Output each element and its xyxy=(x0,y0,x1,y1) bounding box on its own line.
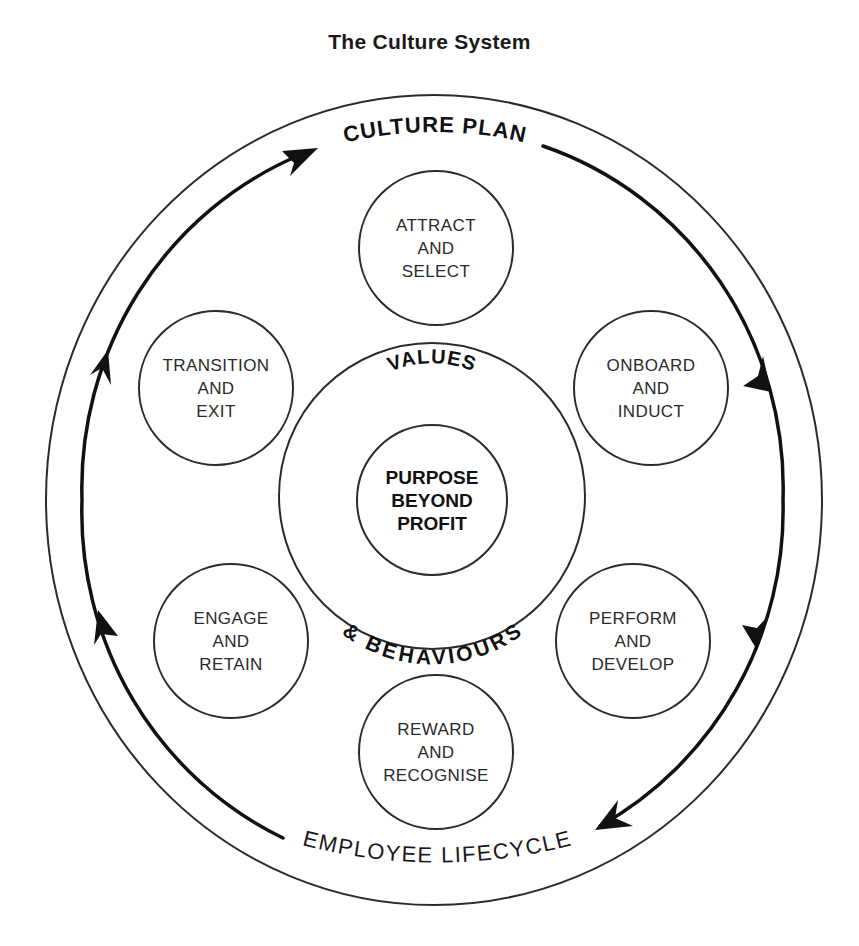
stage-label-line: ONBOARD xyxy=(576,354,726,377)
arrow-head-icon xyxy=(595,800,633,830)
stage-label-line: REWARD xyxy=(361,718,511,741)
stage-label-line: RECOGNISE xyxy=(361,764,511,787)
stage-label-line: ENGAGE xyxy=(156,607,306,630)
stage-reward-and-recognise: REWARD AND RECOGNISE xyxy=(361,718,511,787)
stage-label-line: AND xyxy=(141,377,291,400)
employee-lifecycle-label: EMPLOYEE LIFECYCLE xyxy=(301,825,575,867)
stage-attract-and-select: ATTRACT AND SELECT xyxy=(361,214,511,283)
stage-label-line: AND xyxy=(558,630,708,653)
arrow-head-icon xyxy=(742,616,768,650)
stage-onboard-and-induct: ONBOARD AND INDUCT xyxy=(576,354,726,423)
stage-label-line: INDUCT xyxy=(576,400,726,423)
stage-label-line: RETAIN xyxy=(156,653,306,676)
culture-plan-label: CULTURE PLAN xyxy=(341,112,530,147)
stage-label-line: TRANSITION xyxy=(141,354,291,377)
values-label: VALUES xyxy=(384,345,479,375)
stage-label-line: PERFORM xyxy=(558,607,708,630)
purpose-label: PURPOSE BEYOND PROFIT xyxy=(357,466,507,535)
stage-label-line: AND xyxy=(576,377,726,400)
stage-label-line: AND xyxy=(361,237,511,260)
behaviours-label: & BEHAVIOURS xyxy=(339,618,526,669)
arrow-head-icon xyxy=(90,350,111,385)
purpose-line-1: PURPOSE xyxy=(357,466,507,489)
stage-label-line: AND xyxy=(156,630,306,653)
stage-engage-and-retain: ENGAGE AND RETAIN xyxy=(156,607,306,676)
arrow-head-icon xyxy=(743,356,771,392)
stage-label-line: AND xyxy=(361,741,511,764)
stage-label-line: DEVELOP xyxy=(558,653,708,676)
stage-transition-and-exit: TRANSITION AND EXIT xyxy=(141,354,291,423)
stage-label-line: EXIT xyxy=(141,400,291,423)
purpose-line-2: BEYOND xyxy=(357,489,507,512)
stage-label-line: SELECT xyxy=(361,260,511,283)
purpose-line-3: PROFIT xyxy=(357,512,507,535)
stage-label-line: ATTRACT xyxy=(361,214,511,237)
stage-perform-and-develop: PERFORM AND DEVELOP xyxy=(558,607,708,676)
